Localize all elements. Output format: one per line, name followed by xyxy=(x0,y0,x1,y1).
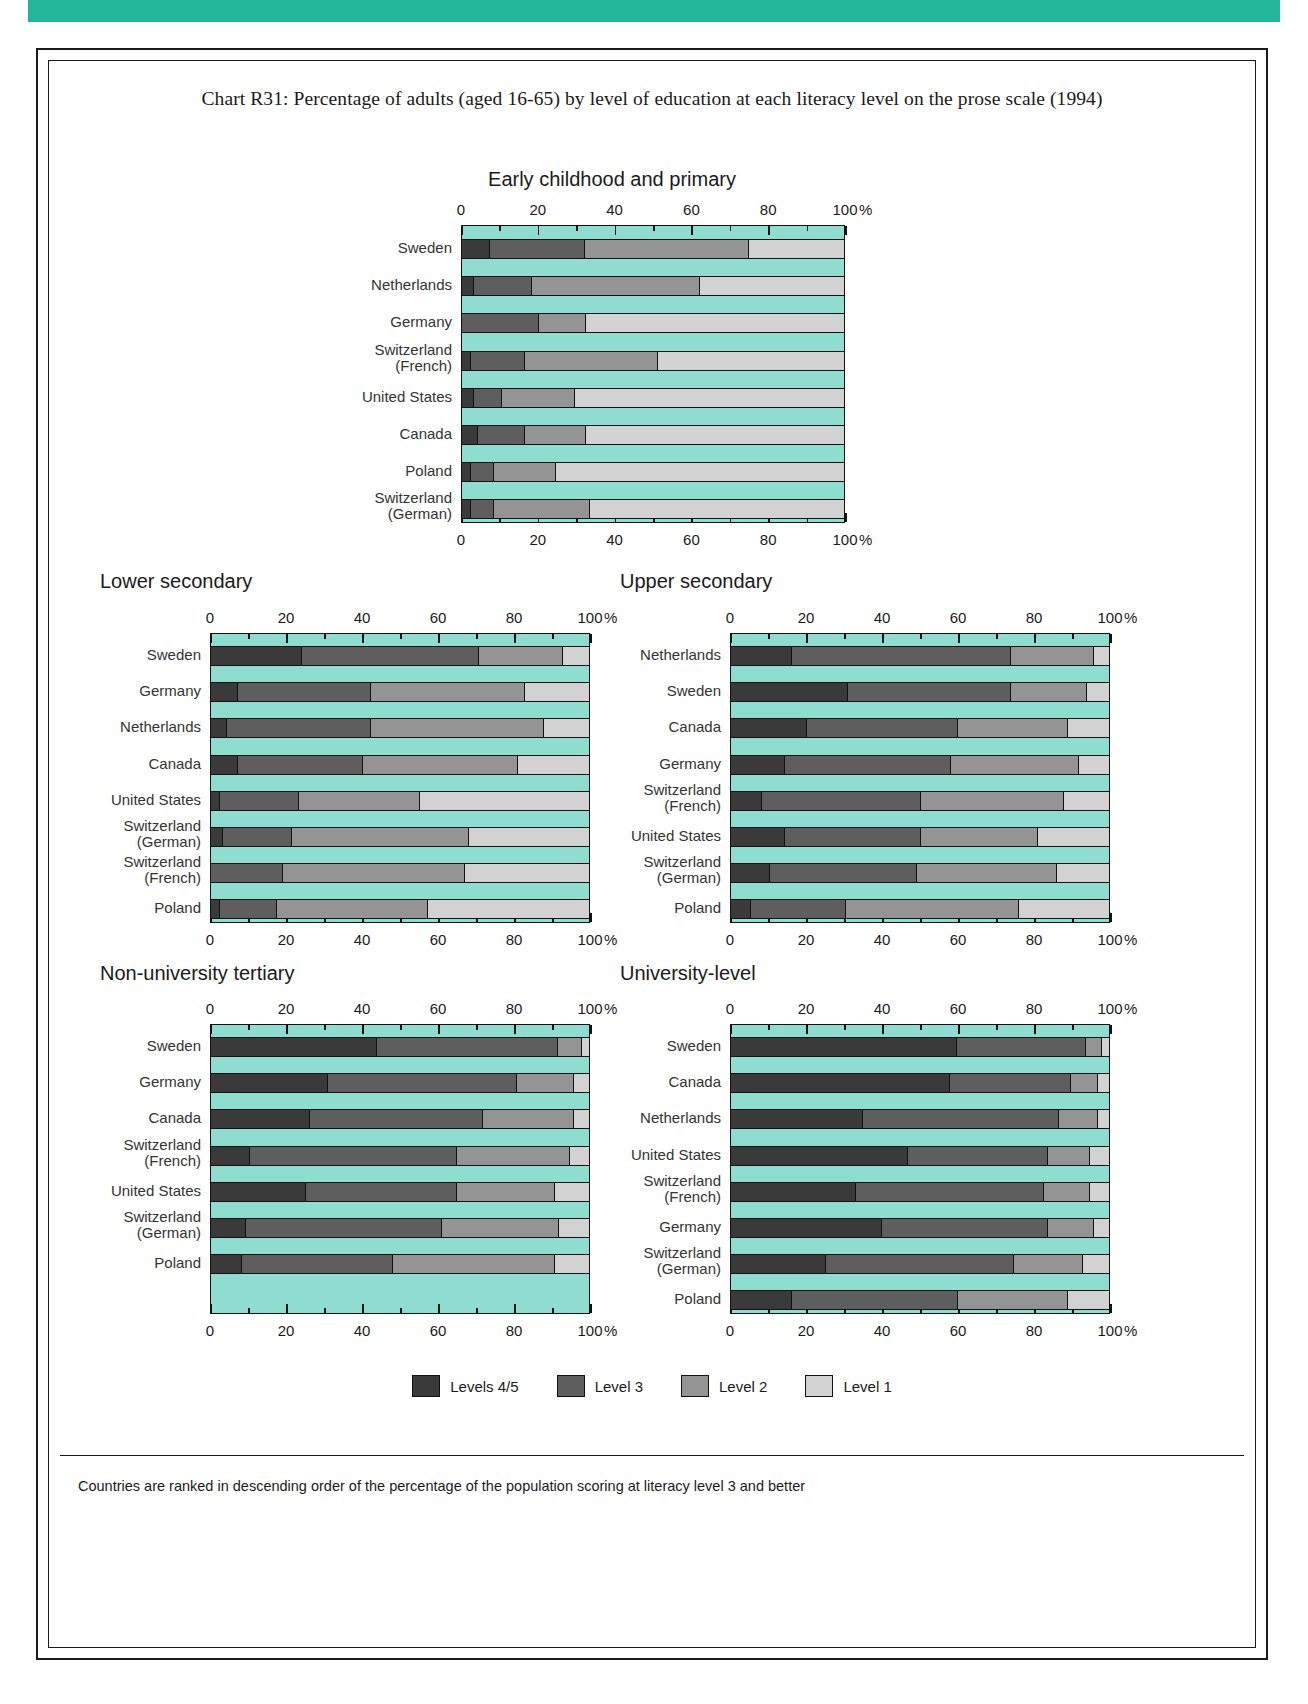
bar-segment-l2 xyxy=(370,719,544,737)
stacked-bar xyxy=(730,899,1110,919)
category-label: Canada xyxy=(51,756,201,772)
axis-tick-label: 100 xyxy=(577,1322,602,1339)
tick-marks-top xyxy=(210,1025,590,1034)
panel-title-2: Lower secondary xyxy=(100,570,252,593)
bar-segment-l45 xyxy=(731,1183,855,1201)
axis-tick-label: 60 xyxy=(683,201,700,218)
bar-segment-l2 xyxy=(920,792,1064,810)
panel-title-1: Early childhood and primary xyxy=(422,168,802,191)
stacked-bar xyxy=(210,791,590,811)
bar-segment-l2 xyxy=(493,500,589,518)
stacked-bar xyxy=(210,899,590,919)
bar-segment-l45 xyxy=(211,1147,249,1165)
bar-segment-l45 xyxy=(731,792,761,810)
category-label: Switzerland (German) xyxy=(571,854,721,886)
axis-unit-label: % xyxy=(1124,609,1137,626)
category-label: Switzerland (German) xyxy=(571,1245,721,1277)
bar-segment-l45 xyxy=(731,864,769,882)
bar-segment-l2 xyxy=(1010,647,1094,665)
stacked-bar xyxy=(461,462,845,482)
bar-segment-l1 xyxy=(589,500,844,518)
bar-segment-l1 xyxy=(1018,900,1109,918)
category-label: United States xyxy=(51,1183,201,1199)
axis-unit-label: % xyxy=(604,609,617,626)
bar-segment-l2 xyxy=(370,683,525,701)
axis-tick-label: 20 xyxy=(798,1322,815,1339)
category-label: Switzerland (French) xyxy=(51,1137,201,1169)
bar-segment-l3 xyxy=(881,1219,1047,1237)
category-label: Sweden xyxy=(51,1038,201,1054)
legend-label: Level 2 xyxy=(719,1378,767,1395)
x-axis-top: 020406080100% xyxy=(730,609,1110,627)
tick-marks-top xyxy=(730,1025,1110,1034)
bar-segment-l45 xyxy=(211,1038,376,1056)
x-axis-bottom: 020406080100% xyxy=(461,531,845,549)
bar-segment-l45 xyxy=(211,828,222,846)
bar-segment-l2 xyxy=(1070,1074,1097,1092)
bar-segment-l3 xyxy=(473,389,501,407)
bar-segment-l3 xyxy=(825,1255,1014,1273)
bar-segment-l2 xyxy=(441,1219,558,1237)
axis-unit-label: % xyxy=(1124,1000,1137,1017)
bar-segment-l2 xyxy=(916,864,1056,882)
bar-segment-l2 xyxy=(392,1255,554,1273)
bar-segment-l45 xyxy=(462,277,473,295)
axis-tick-label: 20 xyxy=(529,201,546,218)
bar-segment-l45 xyxy=(731,828,784,846)
bar-segment-l1 xyxy=(748,240,844,258)
bar-segment-l3 xyxy=(907,1147,1047,1165)
stacked-bar xyxy=(210,646,590,666)
bar-segment-l1 xyxy=(555,463,844,481)
category-label: Germany xyxy=(302,314,452,330)
stacked-bar xyxy=(730,1254,1110,1274)
bar-segment-l3 xyxy=(784,828,920,846)
category-label: United States xyxy=(302,389,452,405)
axis-tick-label: 40 xyxy=(874,609,891,626)
axis-tick-label: 100 xyxy=(1097,1322,1122,1339)
bar-segment-l2 xyxy=(538,314,585,332)
bar-segment-l1 xyxy=(1097,1074,1109,1092)
bar-segment-l3 xyxy=(862,1110,1058,1128)
bar-segment-l1 xyxy=(1097,1110,1109,1128)
bar-segment-l3 xyxy=(956,1038,1085,1056)
bar-segment-l1 xyxy=(1089,1147,1109,1165)
axis-tick-label: 100 xyxy=(577,609,602,626)
category-label: Poland xyxy=(51,1255,201,1271)
axis-tick-label: 60 xyxy=(430,1000,447,1017)
x-axis-top: 020406080100% xyxy=(210,609,590,627)
axis-tick-label: 40 xyxy=(874,931,891,948)
axis-tick-label: 80 xyxy=(506,1000,523,1017)
bar-segment-l2 xyxy=(276,900,427,918)
bar-segment-l1 xyxy=(427,900,589,918)
bar-segment-l45 xyxy=(731,756,784,774)
axis-tick-label: 0 xyxy=(206,1322,214,1339)
legend-item: Level 3 xyxy=(557,1375,643,1397)
stacked-bar xyxy=(210,827,590,847)
axis-unit-label: % xyxy=(859,531,872,548)
bar-segment-l1 xyxy=(1093,647,1109,665)
legend-item: Level 2 xyxy=(681,1375,767,1397)
category-label: Switzerland (French) xyxy=(51,854,201,886)
category-label: Sweden xyxy=(571,1038,721,1054)
bar-segment-l3 xyxy=(462,314,538,332)
axis-unit-label: % xyxy=(604,1322,617,1339)
bar-segment-l1 xyxy=(1056,864,1110,882)
bar-segment-l45 xyxy=(462,426,477,444)
axis-tick-label: 80 xyxy=(506,931,523,948)
stacked-bar xyxy=(730,1073,1110,1093)
bar-segment-l2 xyxy=(291,828,468,846)
bar-segment-l1 xyxy=(419,792,589,810)
category-label: Canada xyxy=(571,719,721,735)
bar-segment-l2 xyxy=(478,647,562,665)
bar-segment-l45 xyxy=(731,1255,825,1273)
stacked-bar xyxy=(730,682,1110,702)
axis-tick-label: 20 xyxy=(798,1000,815,1017)
footnote: Countries are ranked in descending order… xyxy=(78,1478,1226,1494)
stacked-bar xyxy=(461,499,845,519)
legend-swatch-l2 xyxy=(681,1375,709,1397)
bar-segment-l45 xyxy=(211,683,237,701)
bar-segment-l2 xyxy=(957,1291,1067,1309)
axis-tick-label: 60 xyxy=(950,931,967,948)
bar-segment-l3 xyxy=(806,719,957,737)
bar-segment-l45 xyxy=(731,683,847,701)
